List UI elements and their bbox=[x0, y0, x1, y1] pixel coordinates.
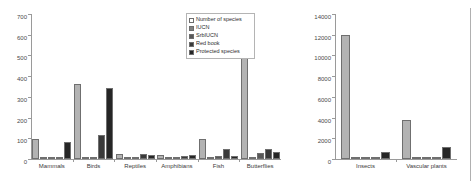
chart-legend: Number of speciesIUCNSrbIUCNRed bookProt… bbox=[186, 13, 255, 59]
bar bbox=[199, 139, 206, 159]
bar bbox=[402, 120, 411, 159]
legend-item: Number of species bbox=[189, 16, 251, 24]
bar bbox=[165, 157, 172, 159]
legend-item: SrbIUCN bbox=[189, 32, 251, 40]
bar bbox=[361, 157, 370, 159]
bar bbox=[173, 157, 180, 159]
bar bbox=[442, 147, 451, 159]
bar bbox=[148, 155, 155, 159]
bar bbox=[412, 157, 421, 159]
legend-label: Number of species bbox=[196, 17, 242, 23]
bar-group bbox=[396, 14, 457, 159]
legend-label: SrbIUCN bbox=[196, 33, 218, 39]
bar bbox=[231, 156, 238, 159]
bar bbox=[207, 157, 214, 159]
bar bbox=[132, 157, 139, 159]
chart-panel-right: 02000400060008000100001200014000 Insects… bbox=[290, 0, 473, 189]
x-tick-label: Reptiles bbox=[114, 163, 156, 169]
bar bbox=[56, 157, 63, 159]
bar bbox=[64, 142, 71, 159]
plot-area-right: 02000400060008000100001200014000 bbox=[335, 14, 457, 160]
bar bbox=[215, 156, 222, 159]
bar bbox=[40, 157, 47, 159]
x-tick-label: Insects bbox=[335, 163, 396, 169]
bar bbox=[124, 157, 131, 159]
legend-item: Protected species bbox=[189, 48, 251, 56]
bar bbox=[189, 155, 196, 159]
bar bbox=[432, 157, 441, 159]
x-tick-label: Vascular plants bbox=[396, 163, 457, 169]
bar bbox=[371, 157, 380, 159]
y-tick-mark bbox=[28, 159, 31, 160]
x-tick-label: Butterflies bbox=[239, 163, 281, 169]
legend-swatch-icon bbox=[189, 42, 194, 47]
panel-border bbox=[470, 8, 471, 181]
x-tick-label: Mammals bbox=[31, 163, 73, 169]
bar-group bbox=[73, 14, 115, 159]
legend-label: Protected species bbox=[196, 49, 240, 55]
bar bbox=[341, 35, 350, 159]
bar bbox=[351, 157, 360, 159]
bar-groups-right bbox=[335, 14, 457, 159]
bar bbox=[98, 135, 105, 159]
bar bbox=[257, 153, 264, 159]
x-tick-label: Birds bbox=[73, 163, 115, 169]
x-tick-labels-left: MammalsBirdsReptilesAmphibiansFishButter… bbox=[31, 163, 281, 169]
bar-group bbox=[31, 14, 73, 159]
legend-swatch-icon bbox=[189, 50, 194, 55]
legend-swatch-icon bbox=[189, 34, 194, 39]
bar-group bbox=[335, 14, 396, 159]
bar bbox=[140, 154, 147, 159]
bar bbox=[157, 155, 164, 159]
bar bbox=[381, 152, 390, 159]
bar bbox=[223, 149, 230, 159]
bar-group bbox=[114, 14, 156, 159]
bar bbox=[273, 152, 280, 159]
legend-label: IUCN bbox=[196, 25, 209, 31]
x-tick-labels-right: InsectsVascular plants bbox=[335, 163, 457, 169]
legend-item: Red book bbox=[189, 40, 251, 48]
bar bbox=[48, 157, 55, 159]
bar bbox=[116, 154, 123, 159]
x-tick-label: Amphibians bbox=[156, 163, 198, 169]
bar bbox=[32, 139, 39, 159]
legend-label: Red book bbox=[196, 41, 220, 47]
bar bbox=[74, 84, 81, 159]
bar bbox=[106, 88, 113, 159]
bar bbox=[181, 156, 188, 159]
bar bbox=[82, 157, 89, 159]
legend-item: IUCN bbox=[189, 24, 251, 32]
x-tick-label: Fish bbox=[198, 163, 240, 169]
chart-figure: 0100200300400500600700 MammalsBirdsRepti… bbox=[0, 0, 473, 189]
legend-swatch-icon bbox=[189, 18, 194, 23]
y-tick-mark bbox=[332, 159, 335, 160]
bar bbox=[422, 157, 431, 159]
bar bbox=[249, 157, 256, 159]
bar bbox=[265, 149, 272, 159]
legend-swatch-icon bbox=[189, 26, 194, 31]
bar bbox=[90, 157, 97, 159]
